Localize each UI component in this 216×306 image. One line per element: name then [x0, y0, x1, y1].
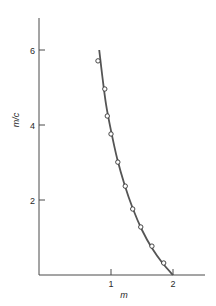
data-point-marker — [131, 207, 135, 211]
x-axis-label: m — [120, 290, 128, 300]
data-point-marker — [139, 225, 143, 229]
data-point-marker — [96, 59, 100, 63]
data-point-marker — [150, 244, 154, 248]
data-point-marker — [109, 132, 113, 136]
chart-canvas: 246 12 m m/c — [0, 0, 216, 306]
y-axis-label: m/c — [11, 112, 21, 127]
data-points — [96, 59, 166, 266]
y-tick-label: 6 — [30, 46, 35, 56]
y-tick-label: 2 — [30, 196, 35, 206]
data-point-marker — [162, 261, 166, 265]
axes — [39, 18, 205, 275]
data-point-marker — [123, 184, 127, 188]
x-ticks: 12 — [108, 269, 175, 289]
data-point-marker — [103, 87, 107, 91]
x-tick-label: 2 — [170, 279, 175, 289]
y-tick-label: 4 — [30, 121, 35, 131]
data-point-marker — [116, 160, 120, 164]
data-point-marker — [105, 114, 109, 118]
x-tick-label: 1 — [108, 279, 113, 289]
fitted-curve — [99, 50, 173, 275]
y-ticks: 246 — [30, 46, 45, 206]
